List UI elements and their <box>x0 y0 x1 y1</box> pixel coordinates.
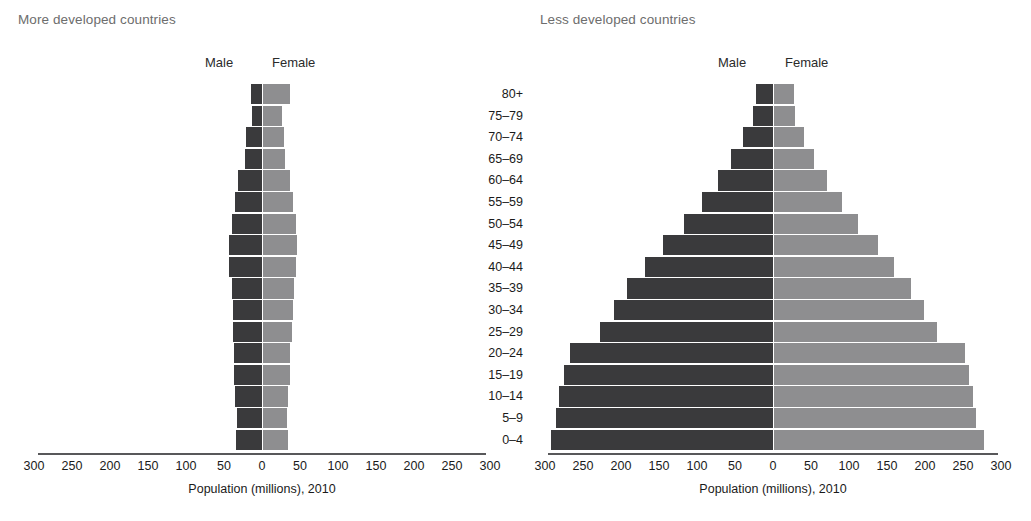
bar-male <box>645 257 773 277</box>
bar-row <box>0 214 1031 236</box>
bar-row <box>0 322 1031 344</box>
bar-row <box>0 106 1031 128</box>
bar-female <box>774 300 924 320</box>
bar-male <box>556 408 773 428</box>
bar-male <box>756 84 773 104</box>
panel-title-less-developed: Less developed countries <box>540 12 696 27</box>
bar-female <box>774 430 984 450</box>
bar-male <box>753 106 773 126</box>
bar-male <box>702 192 773 212</box>
female-header-right: Female <box>785 55 828 70</box>
bar-row <box>0 343 1031 365</box>
bar-row <box>0 300 1031 322</box>
bar-female <box>774 343 965 363</box>
population-pyramid-figure: More developed countries Male Female 300… <box>0 0 1031 521</box>
bar-row <box>0 365 1031 387</box>
bar-female <box>774 257 894 277</box>
bar-male <box>684 214 773 234</box>
bar-male <box>663 235 773 255</box>
bar-female <box>774 127 804 147</box>
bar-male <box>627 278 773 298</box>
panel-less-developed: Less developed countries Male Female 300… <box>0 0 1031 521</box>
bar-row <box>0 257 1031 279</box>
bar-male <box>718 170 773 190</box>
bar-male <box>559 386 773 406</box>
bar-female <box>774 235 878 255</box>
bars-less-developed <box>0 84 1031 451</box>
bar-row <box>0 84 1031 106</box>
bar-row <box>0 170 1031 192</box>
bar-female <box>774 408 976 428</box>
x-tick-label: 300 <box>991 459 1012 473</box>
bar-female <box>774 170 827 190</box>
bar-female <box>774 365 969 385</box>
bar-row <box>0 235 1031 257</box>
bar-row <box>0 408 1031 430</box>
bar-female <box>774 386 973 406</box>
x-axis-line-right <box>548 453 998 455</box>
bar-row <box>0 149 1031 171</box>
x-axis-title-right: Population (millions), 2010 <box>699 482 846 496</box>
bar-male <box>564 365 773 385</box>
bar-row <box>0 278 1031 300</box>
bar-male <box>731 149 773 169</box>
bar-male <box>614 300 773 320</box>
bar-row <box>0 386 1031 408</box>
male-header-right: Male <box>718 55 746 70</box>
x-tick-label: 50 <box>728 459 742 473</box>
x-tick-label: 0 <box>770 459 777 473</box>
x-tick-label: 200 <box>915 459 936 473</box>
bar-female <box>774 192 842 212</box>
bar-male <box>570 343 773 363</box>
bar-female <box>774 84 794 104</box>
bar-row <box>0 127 1031 149</box>
bar-female <box>774 322 937 342</box>
x-tick-label: 50 <box>804 459 818 473</box>
bar-female <box>774 106 795 126</box>
x-tick-label: 100 <box>687 459 708 473</box>
x-tick-label: 300 <box>535 459 556 473</box>
bar-row <box>0 430 1031 452</box>
x-tick-label: 200 <box>611 459 632 473</box>
bar-male <box>600 322 773 342</box>
x-tick-label: 250 <box>953 459 974 473</box>
x-tick-label: 250 <box>573 459 594 473</box>
bar-female <box>774 278 911 298</box>
bar-row <box>0 192 1031 214</box>
bar-male <box>551 430 773 450</box>
bar-female <box>774 214 858 234</box>
bar-male <box>743 127 773 147</box>
bar-female <box>774 149 814 169</box>
x-tick-label: 100 <box>839 459 860 473</box>
x-tick-label: 150 <box>649 459 670 473</box>
x-tick-label: 150 <box>877 459 898 473</box>
